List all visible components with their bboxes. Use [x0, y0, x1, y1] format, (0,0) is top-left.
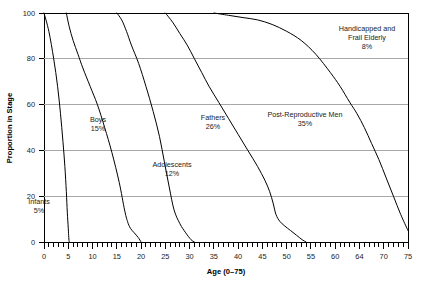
annotation-infants-percent: 5%: [34, 206, 45, 215]
x-tick-label-60: 60: [331, 252, 339, 261]
annotation-elderly-label-line2: Frail Elderly: [348, 33, 386, 42]
x-tick-label-75: 75: [404, 252, 412, 261]
x-tick-label-70: 70: [380, 252, 388, 261]
y-axis-title: Proportion in Stage: [5, 93, 14, 163]
y-tick-label-0: 0: [31, 238, 35, 247]
annotation-fathers-label: Fathers: [201, 113, 226, 122]
x-axis-title: Age (0–75): [207, 267, 246, 276]
annotation-elderly-percent: 8%: [362, 42, 373, 51]
x-tick-label-15: 15: [113, 252, 121, 261]
x-tick-label-10: 10: [88, 252, 96, 261]
x-tick-label-5: 5: [66, 252, 70, 261]
x-tick-label-20: 20: [137, 252, 145, 261]
annotation-postreproductive-label: Post-Reproductive Men: [267, 110, 342, 119]
annotation-fathers-percent: 26%: [206, 122, 221, 131]
x-tick-label-64: 64: [355, 252, 363, 261]
annotation-elderly-label-line1: Handicapped and: [339, 24, 395, 33]
x-tick-label-55: 55: [307, 252, 315, 261]
x-tick-label-0: 0: [42, 252, 46, 261]
annotation-postreproductive-percent: 35%: [298, 119, 313, 128]
annotation-adolescents-label: Adolescents: [152, 160, 192, 169]
x-tick-label-35: 35: [210, 252, 218, 261]
y-tick-label-80: 80: [27, 54, 35, 63]
x-tick-label-45: 45: [258, 252, 266, 261]
annotation-infants-label: Infants: [28, 197, 50, 206]
proportion-in-stage-line-chart: 0 20 40 60 80 100 Proportion in Stage: [0, 0, 421, 281]
annotation-boys-label: Boys: [90, 115, 106, 124]
y-tick-label-60: 60: [27, 100, 35, 109]
x-tick-label-50: 50: [283, 252, 291, 261]
x-tick-label-40: 40: [234, 252, 242, 261]
chart-container: 0 20 40 60 80 100 Proportion in Stage: [0, 0, 421, 281]
annotation-adolescents-percent: 12%: [165, 169, 180, 178]
x-tick-label-25: 25: [161, 252, 169, 261]
x-tick-label-30: 30: [185, 252, 193, 261]
y-tick-label-100: 100: [23, 9, 35, 18]
annotation-boys-percent: 15%: [91, 124, 106, 133]
y-tick-label-40: 40: [27, 146, 35, 155]
